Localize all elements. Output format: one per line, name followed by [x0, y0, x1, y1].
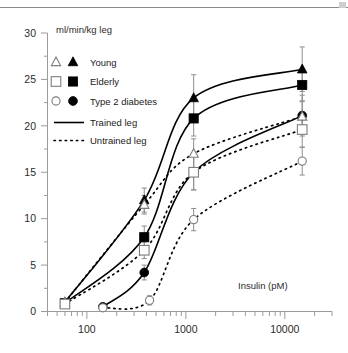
y-tick-label: 0: [30, 305, 36, 317]
data-point-open-triangle: [189, 149, 198, 158]
data-point-filled-square: [68, 77, 77, 86]
data-point-filled-square: [189, 114, 198, 123]
data-point-open-square: [60, 299, 70, 309]
legend-label: Elderly: [90, 76, 119, 87]
y-axis-title: ml/min/kg leg: [56, 24, 112, 35]
x-tick-label: 1000: [174, 323, 198, 335]
data-point-open-circle: [298, 157, 306, 165]
y-tick-label: 15: [24, 166, 36, 178]
y-tick-label: 10: [24, 212, 36, 224]
data-point-filled-circle: [140, 268, 149, 277]
y-axis-tick-labels: 051015202530: [24, 27, 36, 318]
y-tick-label: 25: [24, 73, 36, 85]
insulin-leg-blood-flow-chart: 051015202530 100100010000 ml/min/kg leg …: [0, 0, 348, 353]
x-tick-label: 100: [78, 323, 96, 335]
data-point-filled-square: [140, 233, 149, 242]
y-tick-label: 5: [30, 259, 36, 271]
data-point-filled-triangle: [297, 64, 307, 73]
x-axis-ticks: [48, 312, 333, 320]
x-axis-tick-labels: 100100010000: [78, 323, 299, 335]
y-axis-ticks: [41, 33, 48, 312]
data-point-open-square: [189, 167, 199, 177]
data-point-open-square: [297, 125, 307, 135]
legend-label: Untrained leg: [90, 135, 147, 146]
data-point-open-circle: [99, 304, 107, 312]
y-tick-label: 30: [24, 27, 36, 39]
data-point-filled-triangle: [189, 93, 199, 102]
chart-legend: YoungElderlyType 2 diabetesTrained legUn…: [51, 57, 157, 147]
data-point-filled-triangle: [68, 57, 78, 66]
data-point-filled-square: [298, 80, 307, 89]
data-point-open-circle: [190, 215, 198, 223]
y-tick-label: 20: [24, 120, 36, 132]
data-point-open-square: [51, 77, 61, 87]
x-axis-title: Insulin (pM): [238, 280, 288, 291]
legend-label: Type 2 diabetes: [90, 96, 157, 107]
data-point-open-square: [139, 245, 149, 255]
data-point-open-circle: [145, 296, 153, 304]
data-point-filled-circle: [69, 97, 78, 106]
legend-label: Young: [90, 57, 117, 68]
data-point-open-triangle: [51, 57, 60, 66]
legend-label: Trained leg: [90, 117, 137, 128]
x-tick-label: 10000: [270, 323, 299, 335]
chart-svg: 051015202530 100100010000 ml/min/kg leg …: [0, 0, 348, 353]
data-point-open-circle: [52, 97, 60, 105]
